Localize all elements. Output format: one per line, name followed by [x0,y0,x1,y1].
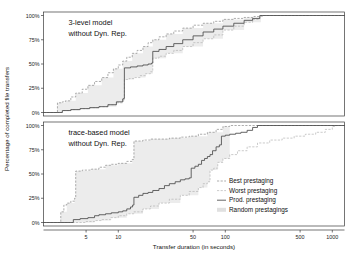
x-tick-label: 100 [221,234,230,240]
legend-label-2: Prod. prestaging [229,196,276,204]
x-tick-label: 50 [190,234,196,240]
y-tick-label: 25% [29,85,40,91]
x-axis: 510501005001000Transfer duration (in sec… [44,230,345,250]
y-axis-title: Percentage of completed file transfers [3,67,10,171]
x-tick-label: 1000 [326,234,338,240]
panel-top: 0%25%50%75%100%3-level modelwithout Dyn.… [26,12,345,116]
y-tick-label: 100% [26,123,40,129]
x-tick-label: 500 [296,234,305,240]
y-tick-label: 75% [29,147,40,153]
legend-label-0: Best prestaging [229,177,274,185]
legend-marker-3 [217,208,226,212]
panel-annotation-line1-top: 3-level model [69,18,113,27]
y-axis-title-group: Percentage of completed file transfers [3,67,10,171]
x-axis-title: Transfer duration (in seconds) [153,243,235,250]
panel-bottom: 0%25%50%75%100%trace-based modelwithout … [26,122,345,226]
y-tick-label: 50% [29,61,40,67]
panel-annotation-line2-bottom: without Dyn. Rep. [68,139,127,148]
legend-label-1: Worst prestaging [229,187,278,195]
y-tick-label: 50% [29,171,40,177]
y-tick-label: 75% [29,37,40,43]
y-tick-label: 0% [32,110,40,116]
chart-figure: 0%25%50%75%100%3-level modelwithout Dyn.… [0,0,354,261]
y-tick-label: 25% [29,195,40,201]
x-tick-label: 10 [115,234,121,240]
legend-label-3: Random prestagings [229,206,288,214]
y-tick-label: 0% [32,220,40,226]
legend: Best prestagingWorst prestagingProd. pre… [217,177,288,214]
chart-canvas: 0%25%50%75%100%3-level modelwithout Dyn.… [0,0,354,261]
panel-annotation-line2-top: without Dyn. Rep. [68,29,127,38]
y-tick-label: 100% [26,13,40,19]
x-tick-label: 5 [85,234,88,240]
panel-annotation-line1-bottom: trace-based model [69,128,131,137]
